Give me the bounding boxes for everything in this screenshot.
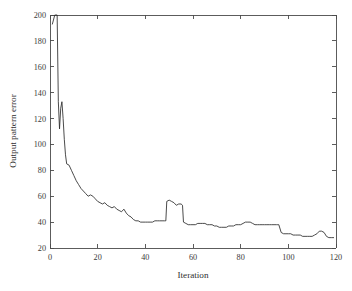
x-tick-label: 120 [330, 253, 342, 262]
y-tick-label: 140 [34, 89, 46, 98]
figure-canvas: 20406080100120140160180200 0204060801001… [0, 0, 352, 291]
x-tick-label: 40 [141, 253, 149, 262]
y-tick-label: 40 [38, 218, 46, 227]
y-tick-label: 100 [34, 140, 46, 149]
y-tick-label: 180 [34, 37, 46, 46]
y-tick-label: 80 [38, 166, 46, 175]
x-tick-label: 20 [94, 253, 102, 262]
y-tick-label: 60 [38, 192, 46, 201]
y-tick-label: 200 [34, 11, 46, 20]
x-axis-title: Iteration [177, 270, 209, 280]
y-tick-label: 20 [38, 244, 46, 253]
y-axis-title: Output pattern error [8, 94, 18, 167]
x-tick-label: 0 [48, 253, 52, 262]
x-tick-label: 100 [282, 253, 294, 262]
line-chart: 20406080100120140160180200 0204060801001… [0, 0, 352, 291]
chart-background [0, 0, 352, 291]
y-tick-label: 160 [34, 63, 46, 72]
x-tick-label: 80 [237, 253, 245, 262]
y-tick-label: 120 [34, 115, 46, 124]
x-tick-label: 60 [189, 253, 197, 262]
